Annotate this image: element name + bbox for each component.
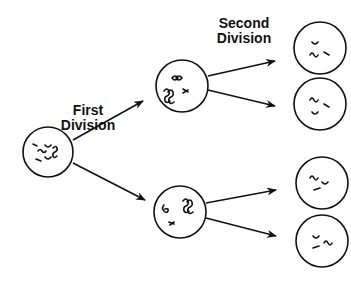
daughter-cell-4 — [296, 215, 348, 267]
chromosomes — [33, 42, 332, 248]
arrow — [73, 163, 145, 200]
arrow — [208, 90, 275, 106]
arrow — [73, 101, 143, 140]
parent-cell — [23, 127, 73, 177]
first-division-cell-top — [156, 60, 208, 112]
daughter-cell-2 — [294, 78, 346, 130]
first-division-cell-bottom — [154, 186, 206, 238]
daughter-cell-1 — [294, 22, 346, 74]
arrow — [206, 190, 276, 203]
arrow — [208, 61, 275, 76]
arrow — [206, 218, 276, 236]
meiosis-diagram — [0, 0, 351, 281]
